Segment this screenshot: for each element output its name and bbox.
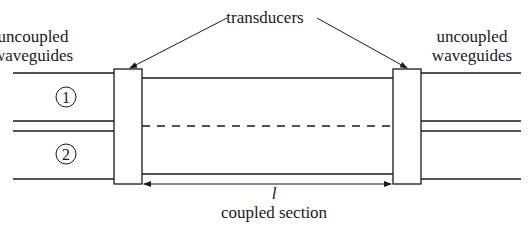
left-transducer-pointer-arrow (130, 18, 227, 68)
waveguide-1-marker: 1 (56, 87, 76, 107)
waveguide-2-number: 2 (62, 146, 70, 163)
right-transducer-pointer-arrow (317, 18, 407, 68)
right-uncoupled-label-line2: waveguides (432, 46, 512, 65)
right-uncoupled-label-line1: uncoupled (437, 27, 508, 46)
length-symbol: l (272, 184, 277, 203)
coupled-section-label: coupled section (221, 203, 328, 222)
waveguide-1-number: 1 (62, 89, 70, 106)
right-transducer-box (393, 69, 421, 184)
left-uncoupled-label-line1: uncoupled (0, 27, 69, 46)
transducers-label: transducers (226, 8, 303, 27)
right-uncoupled-waveguides (421, 73, 521, 179)
left-transducer-box (114, 69, 142, 184)
waveguide-coupler-diagram: uncoupled waveguides uncoupled waveguide… (0, 0, 531, 230)
left-uncoupled-label-line2: waveguides (0, 46, 73, 65)
waveguide-2-marker: 2 (56, 144, 76, 164)
